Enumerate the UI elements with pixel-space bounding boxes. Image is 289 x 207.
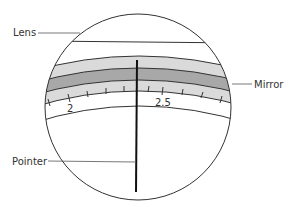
galvanometer-diagram: 2 2.5 Lens Mirror Pointer bbox=[0, 0, 289, 207]
label-mirror: Mirror bbox=[254, 79, 284, 90]
label-lens: Lens bbox=[13, 27, 36, 38]
scale-number-2: 2 bbox=[67, 103, 73, 114]
pointer-line bbox=[136, 60, 137, 192]
mirror-bands bbox=[30, 41, 250, 124]
pointer-leader bbox=[48, 161, 136, 162]
label-pointer: Pointer bbox=[12, 156, 48, 167]
scale-lower-arc bbox=[30, 106, 250, 124]
lens-line bbox=[40, 41, 240, 43]
scale-number-2-5: 2.5 bbox=[155, 97, 171, 108]
